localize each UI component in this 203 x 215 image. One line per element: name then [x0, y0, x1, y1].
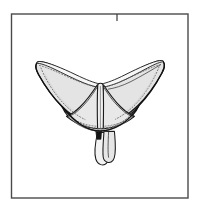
- hanging-strap: [95, 130, 115, 165]
- figure-viewport: Brassiere technical line drawing: [0, 0, 203, 215]
- strap-fold-line: [108, 132, 109, 158]
- brassiere-line-drawing: [0, 0, 203, 215]
- strap-blade: [103, 131, 115, 162]
